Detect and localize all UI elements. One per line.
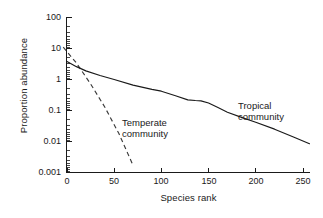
x-tick-label-200: 200	[248, 177, 263, 186]
y-axis-title: Proportion abundance	[18, 11, 29, 161]
y-tick-label-100: 100	[46, 13, 61, 22]
rank-abundance-chart: 100 10 1 0.1 0.01 0.001 0 50 100 150 200…	[0, 0, 323, 218]
x-axis-major-ticks	[67, 168, 303, 173]
y-tick-label-0.01: 0.01	[43, 137, 61, 146]
annotation-temperate-line2: community	[122, 128, 168, 139]
annotation-tropical-community: Tropical community	[238, 100, 284, 122]
axis-spines	[67, 17, 311, 173]
annotation-temperate-community: Temperate community	[122, 117, 168, 139]
x-tick-label-250: 250	[295, 177, 310, 186]
x-tick-label-50: 50	[109, 177, 119, 186]
x-tick-label-0: 0	[64, 177, 69, 186]
y-tick-label-10: 10	[51, 44, 61, 53]
x-tick-label-150: 150	[201, 177, 216, 186]
annotation-tropical-line1: Tropical	[238, 100, 284, 111]
y-tick-label-0.1: 0.1	[48, 106, 61, 115]
y-tick-label-1: 1	[56, 75, 61, 84]
annotation-tropical-line2: community	[238, 111, 284, 122]
annotation-temperate-line1: Temperate	[122, 117, 168, 128]
y-tick-label-0.001: 0.001	[38, 168, 61, 177]
y-axis-major-ticks	[67, 18, 72, 173]
x-tick-label-100: 100	[153, 177, 168, 186]
x-axis-title: Species rank	[67, 192, 310, 203]
